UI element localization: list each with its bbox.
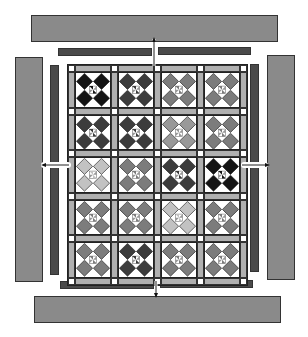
sashing-strip — [154, 72, 161, 108]
sashing-strip — [68, 115, 75, 151]
quilt-block — [75, 115, 111, 151]
sashing-strip — [118, 193, 154, 200]
quilt-block — [204, 157, 240, 193]
cornerstone — [154, 108, 161, 115]
cornerstone — [240, 108, 247, 115]
sashing-strip — [75, 65, 111, 72]
cornerstone — [111, 193, 118, 200]
sashing-strip — [111, 242, 118, 278]
sashing-strip — [204, 150, 240, 157]
quilt-block — [161, 242, 197, 278]
sashing-strip — [161, 235, 197, 242]
sashing-strip — [154, 242, 161, 278]
sashing-strip — [118, 150, 154, 157]
sashing-strip — [111, 200, 118, 236]
sashing-strip — [111, 157, 118, 193]
sashing-strip — [154, 200, 161, 236]
quilt-block — [161, 200, 197, 236]
quilt-block — [75, 242, 111, 278]
quilt-block — [118, 72, 154, 108]
cornerstone — [111, 278, 118, 285]
quilt-block — [75, 157, 111, 193]
cornerstone — [68, 278, 75, 285]
sashing-strip — [204, 193, 240, 200]
arrow-left-icon — [39, 161, 71, 169]
sashing-strip — [111, 72, 118, 108]
quilt-block — [204, 242, 240, 278]
sashing-strip — [118, 278, 154, 285]
quilt-block — [161, 157, 197, 193]
sashing-strip — [154, 157, 161, 193]
cornerstone — [154, 193, 161, 200]
sashing-strip — [161, 65, 197, 72]
sashing-strip — [161, 108, 197, 115]
quilt-block — [118, 200, 154, 236]
sashing-strip — [161, 193, 197, 200]
arrow-right-icon — [241, 161, 271, 169]
sashing-strip — [197, 200, 204, 236]
sashing-strip — [68, 200, 75, 236]
cornerstone — [68, 150, 75, 157]
sashing-strip — [111, 115, 118, 151]
quilt-center — [67, 64, 248, 286]
cornerstone — [240, 65, 247, 72]
sashing-strip — [75, 108, 111, 115]
quilt-block — [161, 115, 197, 151]
bottom-outer-border — [34, 296, 281, 323]
cornerstone — [197, 65, 204, 72]
cornerstone — [154, 150, 161, 157]
sashing-strip — [240, 200, 247, 236]
sashing-strip — [197, 115, 204, 151]
cornerstone — [154, 65, 161, 72]
sashing-strip — [68, 72, 75, 108]
top-inner-border-right — [158, 47, 251, 55]
cornerstone — [111, 235, 118, 242]
cornerstone — [197, 235, 204, 242]
cornerstone — [197, 108, 204, 115]
cornerstone — [68, 235, 75, 242]
sashing-strip — [75, 235, 111, 242]
left-inner-border — [50, 65, 59, 275]
left-outer-border — [15, 57, 43, 282]
quilt-block — [75, 200, 111, 236]
sashing-strip — [118, 65, 154, 72]
cornerstone — [68, 193, 75, 200]
cornerstone — [111, 108, 118, 115]
cornerstone — [240, 235, 247, 242]
right-outer-border — [267, 55, 295, 280]
sashing-strip — [118, 235, 154, 242]
sashing-strip — [161, 150, 197, 157]
sashing-strip — [197, 72, 204, 108]
sashing-strip — [204, 278, 240, 285]
cornerstone — [240, 278, 247, 285]
sashing-strip — [204, 108, 240, 115]
sashing-strip — [240, 242, 247, 278]
quilt-block — [204, 200, 240, 236]
sashing-strip — [240, 72, 247, 108]
sashing-strip — [204, 65, 240, 72]
sashing-strip — [161, 278, 197, 285]
sashing-strip — [75, 150, 111, 157]
cornerstone — [68, 108, 75, 115]
cornerstone — [197, 193, 204, 200]
quilt-block — [118, 242, 154, 278]
arrow-up-icon — [150, 36, 158, 66]
sashing-strip — [75, 278, 111, 285]
sashing-strip — [75, 193, 111, 200]
sashing-strip — [240, 115, 247, 151]
sashing-strip — [68, 242, 75, 278]
sashing-strip — [197, 157, 204, 193]
quilt-block — [118, 115, 154, 151]
arrow-down-icon — [152, 281, 160, 299]
quilt-block — [75, 72, 111, 108]
cornerstone — [68, 65, 75, 72]
quilt-block — [118, 157, 154, 193]
sashing-strip — [154, 115, 161, 151]
quilt-block — [204, 72, 240, 108]
cornerstone — [111, 65, 118, 72]
sashing-strip — [197, 242, 204, 278]
cornerstone — [197, 278, 204, 285]
cornerstone — [197, 150, 204, 157]
cornerstone — [111, 150, 118, 157]
cornerstone — [154, 235, 161, 242]
